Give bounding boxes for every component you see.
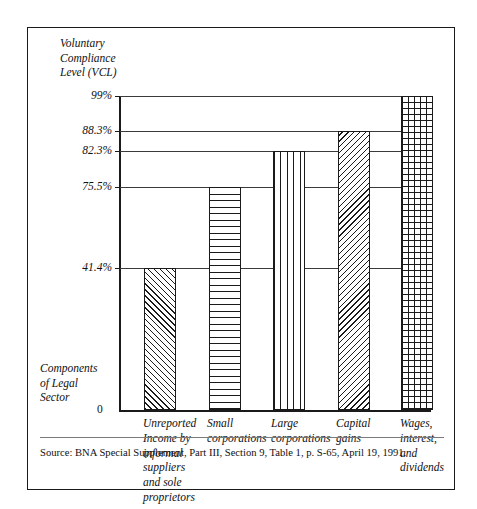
bar-capital-gains [338,131,370,410]
figure-frame: Voluntary Compliance Level (VCL) 99% 88.… [27,27,455,490]
bar-wages-interest-dividends [401,96,433,410]
source-note: Source: BNA Special Supplement, Part III… [40,447,406,458]
ytick-label-82-3: 82.3% [41,144,119,156]
plot-area: 99% 88.3% 82.3% 75.5% 41.4% 0 Unreported… [119,69,431,369]
ytick-label-99: 99% [41,89,119,101]
ytick-label-75-5: 75.5% [41,180,119,192]
x-axis-baseline [119,410,431,412]
y-axis-title: Voluntary Compliance Level (VCL) [60,36,117,80]
ytick-label-zero: 0 [97,403,103,415]
y-axis-line [119,96,121,410]
bar-unreported-income [144,268,176,410]
bar-small-corporations [209,187,241,410]
ytick-label-88-3: 88.3% [41,124,119,136]
category-label-unreported-income: Unreported Income by informal suppliers … [143,416,205,505]
gridline-99 [119,96,431,97]
footer-divider [40,437,444,438]
bar-large-corporations [273,151,305,410]
category-label-large-corporations: Large corporations [271,416,341,446]
ytick-label-41-4: 41.4% [41,261,119,273]
category-label-small-corporations: Small corporations [207,416,277,446]
category-label-capital-gains: Capital gains [336,416,392,446]
gridline-88-3 [119,131,431,132]
x-axis-title: Components of Legal Sector [40,361,118,405]
category-label-wages-interest-dividends: Wages, interest, and dividends [400,416,460,475]
